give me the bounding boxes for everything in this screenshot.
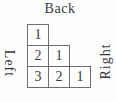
grid-cell: 1 (48, 45, 70, 67)
grid-row: 1 (27, 24, 90, 46)
right-label: Right (98, 42, 113, 82)
grid-row: 3 2 1 (27, 66, 90, 88)
cube-base-plan-figure: Back Left Right 1 2 1 3 2 1 (0, 0, 116, 102)
grid-cell: 1 (27, 24, 49, 46)
grid-cell: 2 (48, 66, 70, 88)
grid-cell: 3 (27, 66, 49, 88)
grid-cell: 1 (69, 66, 91, 88)
grid-cell: 2 (27, 45, 49, 67)
back-label: Back (27, 0, 93, 17)
height-grid: 1 2 1 3 2 1 (27, 24, 90, 88)
left-label: Left (2, 47, 17, 81)
grid-row: 2 1 (27, 45, 90, 67)
